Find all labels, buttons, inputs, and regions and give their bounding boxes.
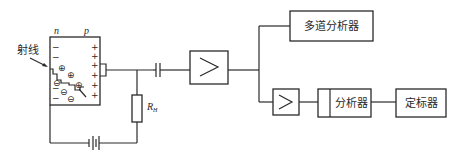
n-region-label: n — [54, 25, 59, 36]
analyzer-label: 分析器 — [335, 96, 368, 110]
resistor-label-main: R — [146, 101, 153, 112]
plus-sign: + — [91, 80, 99, 90]
electron-symbol: ⊖ — [67, 94, 75, 104]
scaler-label: 定标器 — [405, 96, 438, 110]
detector-circuit-diagram: n p − − − − + + + + + + ⊕ ⊕ ⊕ ⊖ ⊖ ⊖ 射线 R… — [0, 0, 460, 158]
ray-arrow-head — [42, 63, 48, 67]
second-amplifier — [273, 89, 299, 115]
resistor-label-subscript: H — [152, 107, 158, 113]
p-side-charges: + + + + + + — [91, 42, 99, 100]
plus-sign: + — [91, 70, 99, 80]
bias-battery — [89, 136, 99, 150]
ray-label: 射线 — [17, 43, 39, 57]
hole-symbol: ⊕ — [58, 63, 66, 73]
minus-sign: − — [52, 42, 60, 52]
hole-symbol: ⊕ — [67, 70, 75, 80]
main-amplifier — [190, 51, 228, 84]
plus-sign: + — [91, 60, 99, 70]
p-contact — [100, 64, 106, 76]
resistor-label: RH — [146, 101, 158, 113]
p-region-label: p — [83, 25, 89, 36]
plus-sign: + — [91, 90, 99, 100]
coupling-capacitor — [156, 63, 160, 77]
minus-sign: − — [52, 93, 60, 103]
load-resistor — [132, 95, 142, 122]
minus-sign: − — [52, 52, 60, 62]
multichannel-analyzer-label: 多道分析器 — [304, 19, 359, 33]
hole-symbol: ⊕ — [75, 80, 83, 90]
